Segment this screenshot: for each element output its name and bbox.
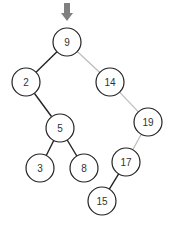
- tree-node-15: 15: [88, 187, 116, 215]
- node-label: 17: [120, 157, 132, 168]
- tree-node-3: 3: [26, 154, 54, 182]
- edge-9-2: [36, 52, 57, 72]
- node-label: 8: [81, 163, 87, 174]
- tree-node-2: 2: [12, 68, 40, 96]
- arrow-shaft: [64, 3, 70, 14]
- edge-5-3: [46, 141, 53, 156]
- tree-node-19: 19: [134, 108, 162, 136]
- tree-node-5: 5: [46, 114, 74, 142]
- tree-node-17: 17: [112, 148, 140, 176]
- tree-node-14: 14: [96, 68, 124, 96]
- edge-5-8: [67, 140, 77, 156]
- node-label: 2: [23, 77, 29, 88]
- edge-14-19: [120, 92, 139, 112]
- node-label: 19: [142, 117, 154, 128]
- node-label: 5: [57, 123, 63, 134]
- node-label: 3: [37, 163, 43, 174]
- node-label: 14: [104, 77, 116, 88]
- edge-2-5: [34, 93, 51, 116]
- tree-nodes: 9214519381715: [12, 28, 162, 215]
- node-label: 9: [64, 37, 70, 48]
- node-label: 15: [96, 196, 108, 207]
- edge-9-14: [77, 52, 99, 73]
- arrow-head: [61, 13, 73, 21]
- edge-17-15: [109, 174, 118, 189]
- root-pointer-arrow-icon: [61, 3, 73, 21]
- tree-node-8: 8: [70, 154, 98, 182]
- edge-19-17: [133, 134, 142, 149]
- tree-node-9: 9: [53, 28, 81, 56]
- tree-diagram: 9214519381715: [0, 0, 170, 226]
